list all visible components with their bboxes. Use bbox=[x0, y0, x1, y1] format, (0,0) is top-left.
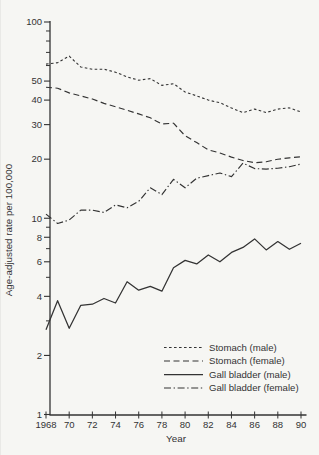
y-axis-tick-label: 6 bbox=[37, 256, 42, 267]
legend-item-stomach-male: Stomach (male) bbox=[164, 342, 277, 353]
line-chart: 124681020304050100 196870727476788082848… bbox=[1, 0, 319, 455]
series-line-stomach-male bbox=[46, 56, 301, 113]
y-axis-title: Age-adjusted rate per 100,000 bbox=[3, 163, 14, 296]
figure-page: 124681020304050100 196870727476788082848… bbox=[1, 0, 319, 455]
y-axis-tick-label: 10 bbox=[31, 213, 42, 224]
series-line-stomach-female bbox=[46, 87, 301, 162]
x-axis-tick-label: 76 bbox=[133, 419, 144, 430]
x-axis-tick-label: 82 bbox=[203, 419, 214, 430]
series-line-gall-bladder-male bbox=[46, 239, 301, 330]
data-series-group bbox=[46, 56, 301, 330]
x-axis-title: Year bbox=[166, 433, 187, 444]
x-axis-tick-label: 74 bbox=[110, 419, 121, 430]
y-axis-tick-label: 30 bbox=[31, 119, 42, 130]
legend-item-gall-bladder-male: Gall bladder (male) bbox=[164, 369, 291, 380]
series-line-gall-bladder-female bbox=[46, 163, 301, 223]
y-axis-tick-label: 8 bbox=[37, 232, 42, 243]
legend-label-gall-bladder-male: Gall bladder (male) bbox=[209, 369, 291, 380]
legend-label-gall-bladder-female: Gall bladder (female) bbox=[209, 382, 299, 393]
x-axis-tick-label: 78 bbox=[157, 419, 168, 430]
x-axis-tick-label: 84 bbox=[226, 419, 237, 430]
x-axis-tick-label: 90 bbox=[296, 419, 307, 430]
legend: Stomach (male)Stomach (female)Gall bladd… bbox=[164, 342, 299, 394]
legend-item-gall-bladder-female: Gall bladder (female) bbox=[164, 382, 299, 393]
y-axis-tick-label: 4 bbox=[37, 291, 42, 302]
x-axis-tick-label: 80 bbox=[180, 419, 191, 430]
x-axis-tick-label: 88 bbox=[273, 419, 284, 430]
y-axis-tick-label: 50 bbox=[31, 75, 42, 86]
y-axis-tick-label: 2 bbox=[37, 350, 42, 361]
y-axis-tick-label: 100 bbox=[26, 16, 42, 27]
x-axis-ticks: 19687072747678808284868890 bbox=[35, 412, 306, 431]
x-axis-tick-label: 1968 bbox=[35, 419, 56, 430]
y-axis-tick-label: 40 bbox=[31, 94, 42, 105]
y-axis-tick-label: 20 bbox=[31, 153, 42, 164]
legend-label-stomach-male: Stomach (male) bbox=[209, 342, 277, 353]
x-axis-tick-label: 86 bbox=[249, 419, 260, 430]
y-axis-ticks: 124681020304050100 bbox=[26, 16, 50, 420]
x-axis-tick-label: 72 bbox=[87, 419, 98, 430]
x-axis-tick-label: 70 bbox=[64, 419, 75, 430]
legend-label-stomach-female: Stomach (female) bbox=[209, 355, 285, 366]
legend-item-stomach-female: Stomach (female) bbox=[164, 355, 285, 366]
